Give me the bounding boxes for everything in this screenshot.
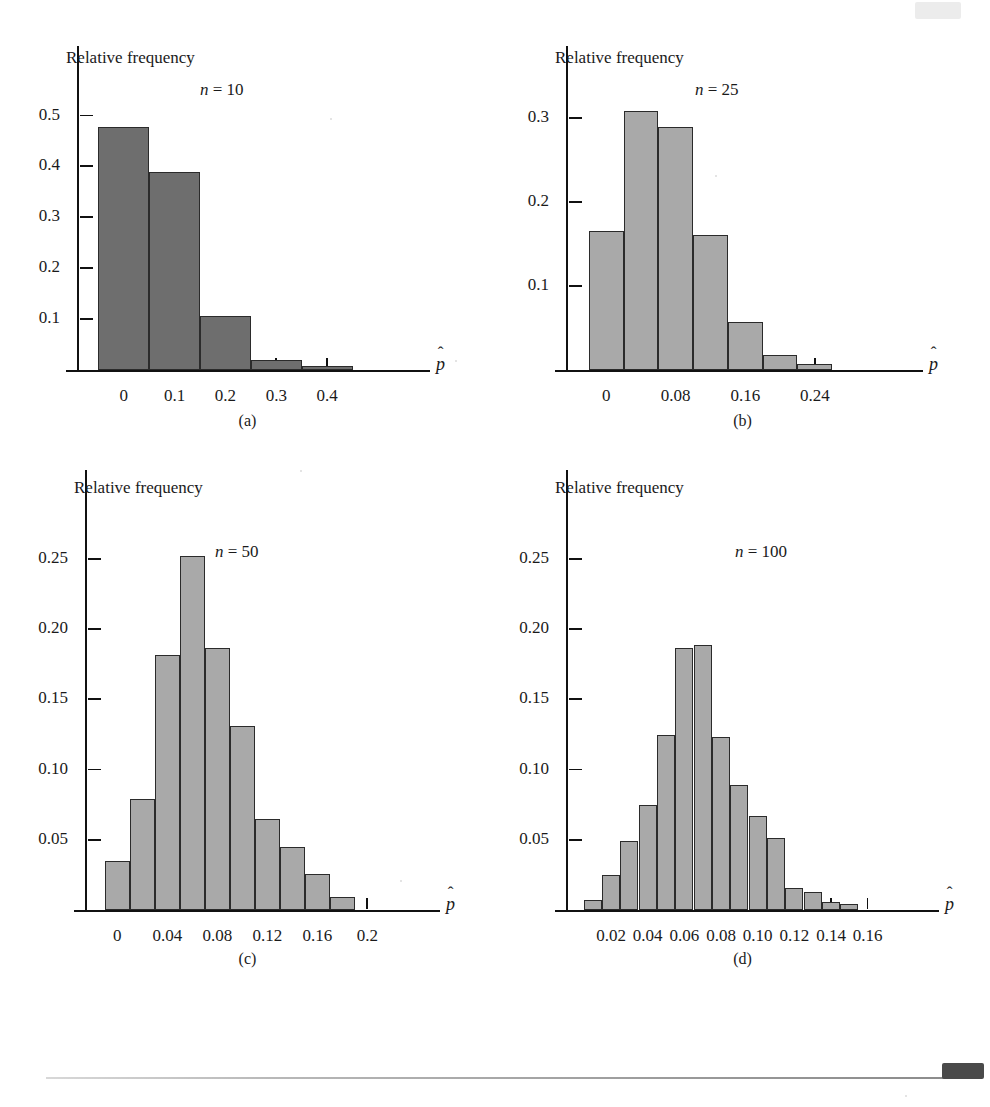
x-axis-line-c <box>74 910 440 912</box>
histogram-bar-c-9 <box>330 897 355 910</box>
panel-caption-d: (d) <box>495 950 990 968</box>
paper-speck <box>905 1095 907 1097</box>
histogram-bar-c-2 <box>155 655 180 910</box>
y-tick-label-a-1: 0.2 <box>0 257 60 277</box>
histogram-bar-d-5 <box>675 648 693 910</box>
y-tick-d-2 <box>569 698 582 700</box>
y-tick-label-c-0: 0.05 <box>0 829 68 849</box>
x-tick-label-b-1: 0.08 <box>642 386 710 406</box>
y-axis-line-a <box>77 46 79 370</box>
panel-c: Relative frequency0.050.100.150.200.2500… <box>0 450 495 1030</box>
sample-size-label-a: n = 10 <box>200 80 244 100</box>
paper-speck <box>400 880 402 882</box>
paper-speck <box>455 360 457 362</box>
histogram-bar-b-5 <box>763 355 798 370</box>
paper-speck <box>715 175 717 177</box>
y-axis-line-c <box>85 470 87 910</box>
panel-caption-a: (a) <box>0 412 495 430</box>
histogram-bar-b-6 <box>797 364 832 370</box>
y-tick-a-2 <box>80 216 93 218</box>
y-tick-c-3 <box>88 628 101 630</box>
histogram-bar-d-2 <box>620 841 638 910</box>
histogram-bar-b-2 <box>658 127 693 370</box>
sample-size-label-b: n = 25 <box>695 80 739 100</box>
y-tick-a-4 <box>80 115 93 117</box>
x-axis-line-b <box>555 370 923 372</box>
y-tick-d-0 <box>569 839 582 841</box>
x-tick-label-b-0: 0 <box>572 386 640 406</box>
sample-size-label-c: n = 50 <box>215 542 259 562</box>
y-tick-d-1 <box>569 769 582 771</box>
histogram-bar-d-14 <box>840 904 858 910</box>
histogram-bar-c-8 <box>305 874 330 910</box>
y-axis-line-b <box>566 46 568 370</box>
y-tick-label-a-4: 0.5 <box>0 105 60 125</box>
panel-b: Relative frequency0.10.20.300.080.160.24… <box>495 30 990 450</box>
histogram-bar-c-4 <box>205 648 230 910</box>
histogram-bar-a-4 <box>302 366 353 370</box>
y-tick-label-b-0: 0.1 <box>495 275 549 295</box>
panel-caption-c: (c) <box>0 950 495 968</box>
y-tick-c-1 <box>88 769 101 771</box>
y-tick-label-b-1: 0.2 <box>495 191 549 211</box>
histogram-bar-c-6 <box>255 819 280 910</box>
y-tick-label-d-0: 0.05 <box>495 829 549 849</box>
y-tick-label-a-0: 0.1 <box>0 308 60 328</box>
histogram-bar-a-3 <box>251 360 302 370</box>
histogram-bar-d-13 <box>822 902 840 910</box>
running-header <box>0 0 990 22</box>
histogram-bar-d-4 <box>657 735 675 910</box>
y-axis-title-b: Relative frequency <box>555 48 684 68</box>
y-tick-a-3 <box>80 165 93 167</box>
paper-speck <box>640 60 642 62</box>
x-tick-c-5 <box>366 898 368 909</box>
histogram-bar-b-1 <box>624 111 659 370</box>
x-tick-label-d-7: 0.16 <box>834 926 902 946</box>
y-tick-label-c-4: 0.25 <box>0 548 68 568</box>
y-tick-a-1 <box>80 267 93 269</box>
figure-page: Relative frequency0.10.20.30.40.500.10.2… <box>0 0 990 1107</box>
footer-marker-block <box>942 1063 984 1079</box>
panel-d: Relative frequency0.050.100.150.200.250.… <box>495 450 990 1030</box>
y-tick-label-d-3: 0.20 <box>495 618 549 638</box>
x-axis-title-a: ˆp <box>436 354 445 375</box>
panel-caption-b: (b) <box>495 412 990 430</box>
x-tick-label-b-2: 0.16 <box>711 386 779 406</box>
histogram-bar-d-1 <box>602 875 620 910</box>
y-tick-a-0 <box>80 318 93 320</box>
histogram-bar-c-0 <box>105 861 130 910</box>
histogram-bar-a-1 <box>149 172 200 370</box>
histogram-bar-a-2 <box>200 316 251 370</box>
histogram-bar-b-0 <box>589 231 624 370</box>
histogram-bar-b-3 <box>693 235 728 370</box>
x-tick-label-b-3: 0.24 <box>781 386 849 406</box>
y-tick-label-d-4: 0.25 <box>495 548 549 568</box>
x-tick-label-c-5: 0.2 <box>333 926 401 946</box>
histogram-bar-d-3 <box>639 805 657 910</box>
y-tick-label-a-3: 0.4 <box>0 155 60 175</box>
paper-speck <box>300 470 302 472</box>
histogram-bar-d-11 <box>785 888 803 910</box>
histogram-bar-a-0 <box>98 127 149 370</box>
y-axis-title-a: Relative frequency <box>66 48 195 68</box>
histogram-bar-d-7 <box>712 737 730 910</box>
y-axis-title-d: Relative frequency <box>555 478 684 498</box>
paper-speck <box>330 118 332 120</box>
histogram-bar-c-7 <box>280 847 305 910</box>
x-axis-title-c: ˆp <box>446 894 455 915</box>
x-axis-title-d: ˆp <box>945 894 954 915</box>
histogram-bar-d-10 <box>767 838 785 910</box>
histogram-bar-b-4 <box>728 322 763 370</box>
y-tick-label-c-1: 0.10 <box>0 759 68 779</box>
y-tick-b-2 <box>569 117 582 119</box>
y-tick-label-d-1: 0.10 <box>495 759 549 779</box>
y-tick-b-1 <box>569 201 582 203</box>
y-tick-c-2 <box>88 698 101 700</box>
histogram-bar-d-6 <box>694 645 712 910</box>
histogram-bar-d-0 <box>584 900 602 910</box>
histogram-bar-c-5 <box>230 726 255 910</box>
sample-size-label-d: n = 100 <box>735 542 787 562</box>
histogram-bar-d-9 <box>749 816 767 910</box>
y-tick-c-4 <box>88 558 101 560</box>
x-axis-line-d <box>555 910 939 912</box>
